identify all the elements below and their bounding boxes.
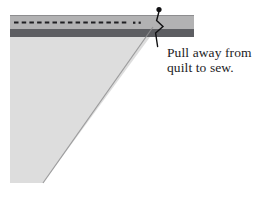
seam-allowance-band [10,29,194,37]
caption-line-1: Pull away from [167,45,252,60]
stitch-dot-1 [133,22,135,24]
stitch-dot-2 [139,22,141,24]
caption-line-2: quilt to sew. [167,60,252,75]
quilt-corner [10,37,150,183]
caption: Pull away from quilt to sew. [167,45,252,75]
binding-diagram [0,0,254,197]
figure-canvas: Pull away from quilt to sew. [0,0,254,197]
